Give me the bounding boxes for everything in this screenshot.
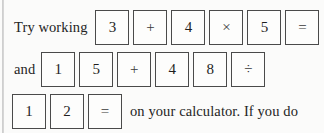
key-group-2: 15+48÷ (41, 52, 265, 87)
line-2-lead-text: and (14, 62, 35, 77)
calculator-key-divide: ÷ (231, 52, 265, 87)
calculator-key-8: 8 (193, 52, 227, 87)
calculator-key-plus: + (117, 52, 151, 87)
text-line-1: Try working 3+4×5= (14, 8, 319, 46)
calculator-key-4: 4 (171, 10, 205, 45)
calculator-key-2: 2 (50, 94, 84, 129)
calculator-key-1: 1 (41, 52, 75, 87)
calculator-key-1: 1 (12, 94, 46, 129)
calculator-key-plus: + (133, 10, 167, 45)
calculator-key-equals: = (88, 94, 122, 129)
calculator-key-4: 4 (155, 52, 189, 87)
calculator-key-multiply: × (209, 10, 243, 45)
calculator-key-3: 3 (95, 10, 129, 45)
calculator-key-5: 5 (79, 52, 113, 87)
scanned-page: Try working 3+4×5= and 15+48÷ 12= on you… (0, 0, 324, 133)
line-1-lead-text: Try working (14, 20, 87, 35)
text-line-3: 12= on your calculator. If you do (12, 92, 298, 130)
scan-gutter-artifact (2, 0, 4, 133)
line-3-trail-text: on your calculator. If you do (130, 104, 298, 119)
calculator-key-5: 5 (247, 10, 281, 45)
text-line-2: and 15+48÷ (14, 50, 265, 88)
key-group-1: 3+4×5= (95, 10, 319, 45)
calculator-key-equals: = (285, 10, 319, 45)
key-group-3: 12= (12, 94, 122, 129)
